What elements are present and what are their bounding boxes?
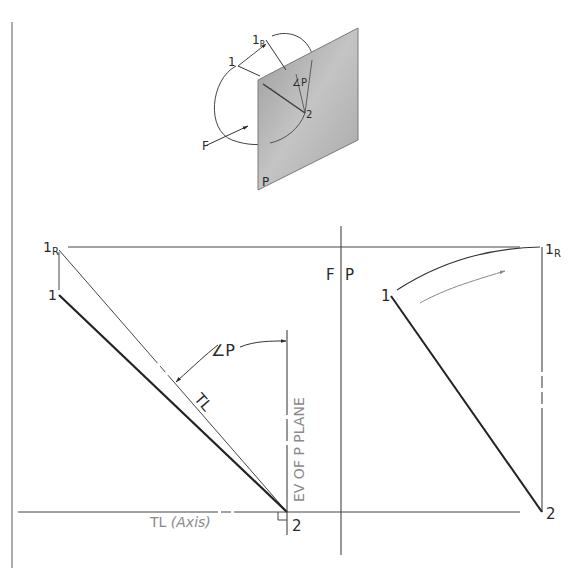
angle-arc-upper	[240, 341, 286, 347]
true-length-line	[59, 250, 287, 512]
pictorial-point-1R-label: 1R	[252, 33, 266, 49]
line-1-2-front	[59, 295, 287, 512]
leader-1	[238, 66, 260, 76]
pictorial-plane-label: P	[262, 175, 269, 189]
tl-label: TL	[190, 389, 216, 415]
rotation-arc-profile	[397, 247, 540, 290]
front-point-1-label: 1	[48, 287, 57, 303]
front-point-2-label: 2	[292, 517, 302, 535]
fold-label-f: F	[326, 266, 335, 284]
fold-label-p: P	[345, 266, 354, 284]
profile-view: 1 1R 2	[381, 241, 561, 523]
right-angle-mark	[278, 512, 287, 520]
leader-1R	[266, 40, 286, 70]
edge-view-label: EV OF P PLANE	[291, 397, 307, 502]
line-1-2-profile	[391, 296, 542, 512]
pictorial-point-1-label: 1	[228, 55, 236, 69]
pictorial-point-2-label: 2	[306, 109, 312, 120]
pictorial-view: 1 1R ∠P 2 F P	[202, 28, 358, 190]
profile-point-1-label: 1	[381, 287, 391, 305]
axis-tl-label: TL (Axis)	[149, 514, 211, 530]
pictorial-frontal-label: F	[202, 139, 209, 153]
profile-point-1R-label: 1R	[545, 241, 561, 259]
profile-point-2-label: 2	[546, 505, 556, 523]
angle-p-label: ∠P	[211, 341, 235, 360]
fold-line-group: F P	[326, 226, 354, 555]
angle-arrow-lower	[176, 381, 177, 382]
rotation-direction-arrow	[420, 271, 505, 303]
front-view: 1R 1 ∠P TL EV OF P PLANE 2 TL (Axis)	[18, 239, 520, 535]
front-point-1R-label: 1R	[43, 239, 59, 257]
diagram-canvas: 1 1R ∠P 2 F P 1R 1 ∠P TL EV OF P PLANE 2…	[0, 0, 579, 568]
pictorial-angle-label: ∠P	[292, 77, 307, 88]
